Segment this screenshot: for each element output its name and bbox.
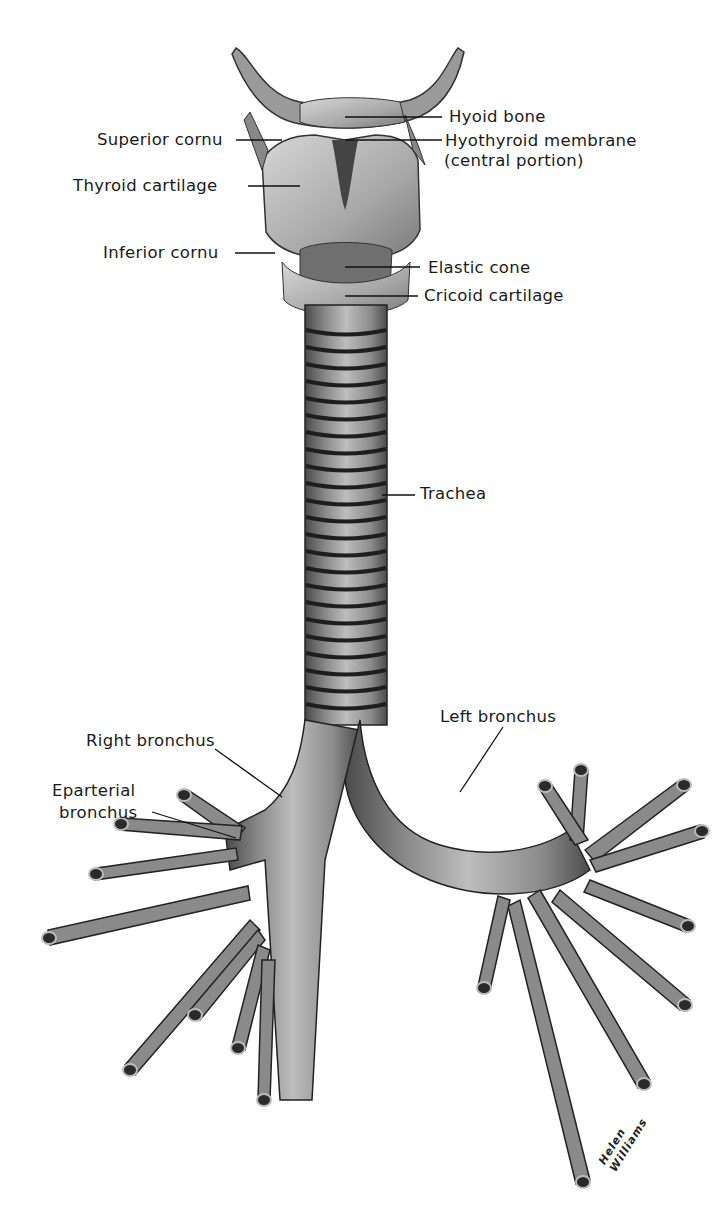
trachea bbox=[305, 305, 387, 725]
bronchiole-opening bbox=[231, 1042, 245, 1054]
label-trachea: Trachea bbox=[420, 484, 486, 503]
label-thyroid-cartilage: Thyroid cartilage bbox=[73, 176, 218, 195]
label-hyoid-bone: Hyoid bone bbox=[449, 107, 546, 126]
bronchiole-opening bbox=[257, 1094, 271, 1106]
label-eparterial-bronchus-sub: bronchus bbox=[59, 803, 137, 822]
left-lung-branches bbox=[478, 770, 704, 1184]
label-elastic-cone: Elastic cone bbox=[428, 258, 530, 277]
bronchiole-opening bbox=[677, 779, 691, 791]
bronchiole-opening bbox=[188, 1009, 202, 1021]
thyroid-cartilage bbox=[244, 112, 425, 258]
hyoid-bone bbox=[232, 48, 464, 128]
bronchiole-opening bbox=[574, 764, 588, 776]
bronchiole-opening bbox=[695, 825, 709, 837]
label-left-bronchus: Left bronchus bbox=[440, 707, 556, 726]
bronchiole-opening bbox=[678, 999, 692, 1011]
label-cricoid-cartilage: Cricoid cartilage bbox=[424, 286, 564, 305]
bronchiole-opening bbox=[681, 920, 695, 932]
bronchiole-opening bbox=[89, 868, 103, 880]
bronchiole-opening bbox=[42, 932, 56, 944]
bronchiole-opening bbox=[123, 1064, 137, 1076]
label-hyothyroid-membrane-sub: (central portion) bbox=[444, 151, 584, 170]
bronchiole-opening bbox=[538, 780, 552, 792]
bronchiole-opening bbox=[477, 982, 491, 994]
label-right-bronchus: Right bronchus bbox=[86, 731, 215, 750]
cricoid-cartilage bbox=[282, 243, 410, 316]
label-hyothyroid-membrane: Hyothyroid membrane bbox=[445, 131, 637, 150]
label-inferior-cornu: Inferior cornu bbox=[103, 243, 219, 262]
label-superior-cornu: Superior cornu bbox=[97, 130, 223, 149]
bronchiole-opening bbox=[576, 1176, 590, 1188]
bronchiole-opening bbox=[177, 789, 191, 801]
label-eparterial-bronchus: Eparterial bbox=[52, 781, 135, 800]
